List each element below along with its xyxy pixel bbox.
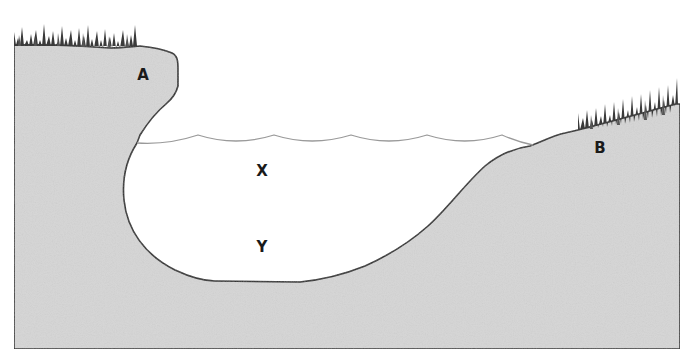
- label-b: B: [594, 139, 605, 157]
- ground-terrain: [14, 45, 680, 349]
- label-x: X: [256, 162, 268, 180]
- water-surface-line: [137, 135, 533, 145]
- label-y: Y: [256, 238, 269, 256]
- lake-cross-section-diagram: A B X Y: [0, 0, 693, 362]
- label-a: A: [137, 66, 149, 84]
